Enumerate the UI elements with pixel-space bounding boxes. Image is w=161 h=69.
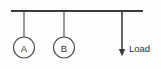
load-arrow-head-icon <box>119 49 125 57</box>
node-label-b: B <box>61 43 67 54</box>
load-label: Load <box>129 43 150 54</box>
diagram-canvas: A B Load <box>0 0 161 69</box>
beam-load-diagram: A B Load <box>0 0 161 69</box>
node-label-a: A <box>21 43 28 54</box>
